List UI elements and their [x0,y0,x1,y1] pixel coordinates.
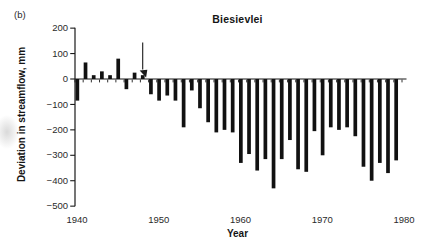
bar-1978 [386,79,390,173]
y-tick-label: −500 [47,200,68,211]
bar-1974 [353,79,357,136]
bar-1942 [92,75,96,79]
y-tick-label: 200 [52,22,68,33]
bar-1948 [141,75,145,79]
x-axis-label: Year [60,228,415,239]
bar-1943 [100,71,104,79]
x-tick-label: 1980 [393,214,414,225]
bar-1946 [125,79,129,89]
bar-1969 [313,79,317,131]
bar-1955 [198,79,202,108]
y-tick-label: −100 [47,99,68,110]
bar-1945 [116,59,120,79]
bar-1959 [231,79,235,132]
x-tick-label: 1950 [148,214,169,225]
bar-1973 [345,79,349,127]
bar-1970 [321,79,325,155]
bar-1941 [84,62,88,79]
y-tick-label: −200 [47,124,68,135]
bar-1960 [239,79,243,163]
bar-1968 [304,79,308,172]
bar-1971 [329,79,333,127]
bar-1958 [223,79,227,130]
streamflow-deviation-figure: (b) Biesievlei Deviation in streamflow, … [0,0,423,252]
x-tick-label: 1970 [312,214,333,225]
bar-1949 [149,79,153,94]
bar-1961 [247,79,251,154]
bar-1967 [296,79,300,169]
y-tick-label: −300 [47,149,68,160]
bar-1976 [370,79,374,181]
x-tick-label: 1960 [230,214,251,225]
bar-1977 [378,79,382,163]
bar-1965 [280,79,284,159]
bar-1940 [76,79,80,101]
bar-1964 [272,79,276,188]
bar-1947 [133,73,137,79]
bar-1963 [264,79,268,159]
bar-1957 [214,79,218,132]
bar-1966 [288,79,292,140]
bar-1952 [174,79,178,101]
y-tick-label: 0 [63,73,68,84]
bar-1975 [362,79,366,167]
bar-1950 [157,79,161,101]
bar-1972 [337,79,341,130]
y-tick-label: −400 [47,175,68,186]
bar-1979 [394,79,398,160]
x-tick-label: 1940 [66,214,87,225]
y-tick-label: 100 [52,48,68,59]
streamflow-bar-chart: 2001000−100−200−300−400−5001940195019601… [0,0,423,252]
bar-1956 [206,79,210,122]
bar-1951 [165,79,169,96]
bar-1954 [190,79,194,90]
bar-1944 [108,75,112,79]
bar-1953 [182,79,186,127]
bar-1962 [255,79,259,171]
